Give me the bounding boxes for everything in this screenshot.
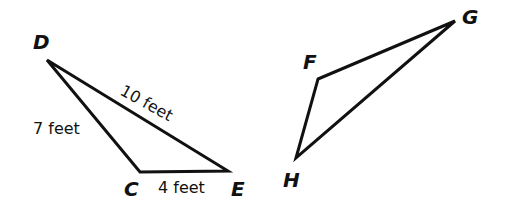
triangle-fgh xyxy=(296,21,455,158)
vertex-label-g: G xyxy=(462,5,478,29)
triangle-cde xyxy=(47,60,228,172)
vertex-label-h: H xyxy=(283,168,300,192)
vertex-label-c: C xyxy=(124,177,139,200)
side-label-dc: 7 feet xyxy=(33,119,80,138)
vertex-label-f: F xyxy=(303,50,317,74)
vertex-label-e: E xyxy=(231,177,245,200)
side-label-ce: 4 feet xyxy=(158,178,205,197)
vertex-label-d: D xyxy=(33,30,50,54)
side-label-de: 10 feet xyxy=(117,81,176,125)
diagram-canvas: D C E 7 feet 4 feet 10 feet F G H xyxy=(0,0,508,200)
